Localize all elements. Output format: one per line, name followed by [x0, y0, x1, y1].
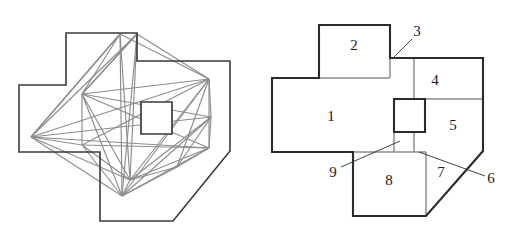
mesh-edge-16	[130, 34, 137, 180]
figure-root: 123456789	[0, 0, 505, 231]
mesh-edge-8	[31, 137, 130, 180]
mesh-edge-30	[82, 34, 137, 94]
partition-hole	[394, 99, 425, 132]
region-label-5: 5	[449, 117, 457, 133]
region-label-2: 2	[350, 37, 358, 53]
mesh-edge-38	[177, 148, 209, 167]
leader-line-region-9	[341, 141, 400, 167]
region-label-9: 9	[329, 164, 337, 180]
triangulation-mesh	[31, 34, 211, 196]
polygon-hole	[141, 102, 172, 134]
region-label-7: 7	[437, 164, 445, 180]
right-panel-canvas: 123456789	[253, 0, 505, 231]
left-panel	[0, 0, 253, 231]
region-label-1: 1	[327, 108, 335, 124]
right-panel: 123456789	[253, 0, 505, 231]
region-dividers	[272, 58, 483, 216]
leader-line-region-3	[392, 39, 412, 59]
leader-line-region-6	[419, 152, 485, 176]
mesh-edge-18	[137, 34, 209, 79]
mesh-edge-14	[82, 34, 120, 94]
mesh-edge-6	[31, 79, 209, 137]
region-label-3: 3	[413, 23, 421, 39]
region-label-6: 6	[487, 170, 495, 186]
region-label-4: 4	[431, 72, 439, 88]
left-panel-canvas	[0, 0, 253, 231]
mesh-edge-1	[82, 79, 209, 94]
region-label-8: 8	[385, 172, 393, 188]
